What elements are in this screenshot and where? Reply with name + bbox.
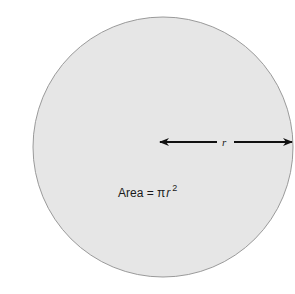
circle-shape — [33, 17, 293, 277]
formula-prefix: Area = — [118, 186, 157, 200]
radius-label: r — [222, 136, 227, 148]
formula-pi: π — [157, 186, 165, 200]
circle-area-diagram: r Area = πr2 — [0, 0, 295, 294]
formula-exponent: 2 — [172, 183, 177, 193]
area-formula: Area = πr2 — [118, 183, 177, 200]
